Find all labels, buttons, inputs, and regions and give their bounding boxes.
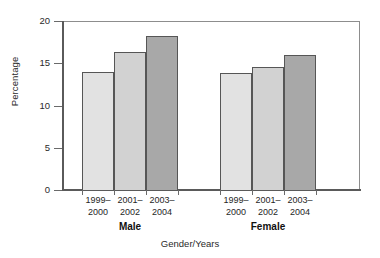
bar-chart: Percentage 05101520 1999–20002001–200220… [0,0,380,258]
y-tick-mark [54,21,62,22]
x-tick-label: 2001–2002 [114,195,146,218]
y-tick-mark [54,106,62,107]
x-axis-title: Gender/Years [0,238,380,249]
bar [146,36,178,190]
bar [284,55,316,190]
x-tick-label: 2001–2002 [252,195,284,218]
bars-container [63,21,359,190]
x-tick-label: 2003–2004 [146,195,178,218]
y-tick-mark [54,63,62,64]
x-tick-label: 1999–2000 [82,195,114,218]
y-tick-label: 0 [10,184,50,195]
y-tick-label: 15 [10,57,50,68]
bar [252,67,284,190]
y-tick-mark [54,190,62,191]
y-tick-label: 5 [10,142,50,153]
x-axis-category-labels: 1999–20002001–20022003–20041999–20002001… [63,195,359,223]
y-tick-mark [54,148,62,149]
bar [82,72,114,190]
bar [220,73,252,190]
y-tick-label: 10 [10,100,50,111]
x-tick-label: 1999–2000 [220,195,252,218]
x-axis-group-label: Female [220,221,316,232]
bar [114,52,146,190]
x-axis-group-label: Male [82,221,178,232]
x-tick-label: 2003–2004 [284,195,316,218]
y-tick-label: 20 [10,15,50,26]
